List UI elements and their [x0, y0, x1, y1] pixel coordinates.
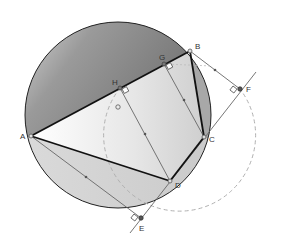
label-C: C — [209, 135, 215, 144]
label-H: H — [112, 78, 118, 87]
label-B: B — [195, 42, 200, 51]
label-E: E — [139, 224, 144, 233]
point-H — [118, 86, 122, 90]
point-F — [238, 87, 242, 91]
point-D — [168, 179, 172, 183]
point-C — [202, 135, 206, 139]
point-A — [29, 134, 33, 138]
point-B — [188, 49, 192, 53]
label-F: F — [246, 85, 251, 94]
diagram-canvas: A B C D E F G H — [0, 0, 281, 245]
point-E — [139, 216, 143, 220]
circle-fill — [0, 0, 281, 245]
geometry-diagram: A B C D E F G H — [0, 0, 281, 245]
label-G: G — [159, 53, 165, 62]
label-A: A — [20, 132, 26, 141]
point-G — [162, 62, 166, 66]
label-D: D — [175, 181, 181, 190]
